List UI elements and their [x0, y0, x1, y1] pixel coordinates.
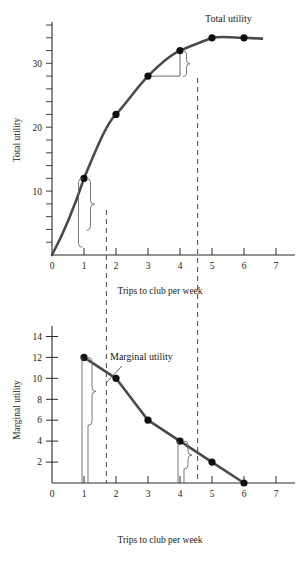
bottom-x-tick-label-1: 1	[82, 489, 87, 499]
bottom-y-tick-label-14: 14	[33, 332, 43, 342]
total-utility-chart: 10 20 30 0 1 2 3 4 5 6 7	[0, 0, 307, 300]
top-y-tick-label-10: 10	[33, 187, 43, 197]
top-y-minor-ticks	[46, 25, 52, 242]
top-x-tick-label-1: 1	[82, 261, 87, 271]
marginal-utility-point-2	[112, 375, 119, 382]
marginal-utility-point-1	[80, 354, 87, 361]
bottom-x-tick-label-2: 2	[114, 489, 119, 499]
bottom-y-axis-title: Marginal utility	[12, 380, 22, 440]
total-utility-point-6	[240, 34, 247, 41]
marginal-utility-point-6	[240, 479, 247, 486]
bottom-x-tick-label-0: 0	[50, 489, 55, 499]
marginal-utility-point-3	[144, 417, 151, 424]
total-utility-point-4	[176, 47, 183, 54]
top-y-tick-label-20: 20	[33, 123, 43, 133]
total-utility-curve	[52, 37, 262, 255]
bottom-x-tick-label-3: 3	[146, 489, 151, 499]
bottom-x-tick-label-4: 4	[178, 489, 183, 499]
bottom-y-tick-label-4: 4	[37, 436, 42, 446]
marginal-utility-point-5	[208, 459, 215, 466]
top-x-tick-label-7: 7	[274, 261, 279, 271]
marginal-utility-point-4	[176, 438, 183, 445]
top-x-ticks	[84, 248, 276, 255]
marginal-utility-curve	[84, 357, 244, 483]
top-x-tick-label-4: 4	[178, 261, 183, 271]
bottom-y-tick-label-6: 6	[37, 415, 42, 425]
marginal-utility-series-label: Marginal utility	[110, 351, 173, 362]
total-utility-point-5	[208, 34, 215, 41]
top-y-axis-title: Total utility	[12, 118, 22, 163]
top-x-tick-label-3: 3	[146, 261, 151, 271]
bottom-x-tick-label-5: 5	[210, 489, 215, 499]
marginal-utility-chart: 14 12 10 8 6 4 2 0 1 2 3 4 5 6 7	[0, 300, 307, 581]
bottom-x-tick-label-6: 6	[242, 489, 247, 499]
top-x-tick-label-6: 6	[242, 261, 247, 271]
bottom-y-tick-label-12: 12	[33, 353, 43, 363]
bottom-y-tick-label-8: 8	[37, 395, 42, 405]
top-x-tick-label-2: 2	[114, 261, 119, 271]
top-y-tick-label-30: 30	[33, 59, 43, 69]
total-utility-series-label: Total utility	[205, 13, 252, 24]
total-utility-point-3	[144, 73, 151, 80]
top-x-tick-label-0: 0	[50, 261, 55, 271]
bottom-y-tick-label-10: 10	[33, 374, 43, 384]
bottom-x-axis-title: Trips to club per week	[117, 535, 202, 545]
bottom-x-tick-label-7: 7	[274, 489, 279, 499]
top-x-tick-label-5: 5	[210, 261, 215, 271]
top-x-axis-title: Trips to club per week	[117, 286, 202, 296]
total-utility-point-2	[112, 111, 119, 118]
utility-figure: 10 20 30 0 1 2 3 4 5 6 7	[0, 0, 307, 581]
bottom-brace-trip-1	[82, 357, 96, 483]
top-brace-trip-4	[183, 51, 190, 77]
bottom-y-tick-label-2: 2	[37, 457, 42, 467]
